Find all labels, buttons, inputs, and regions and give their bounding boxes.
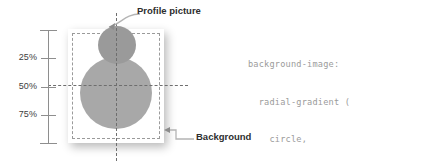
ruler-tick-100 — [40, 143, 57, 144]
ruler-label-25: 25% — [19, 52, 37, 62]
percentage-ruler: 25% 50% 75% — [48, 30, 49, 143]
ruler-tick-0 — [40, 30, 57, 31]
horizontal-center-guide — [48, 85, 188, 86]
annotation-label-profile-picture: Profile picture — [137, 5, 201, 16]
arrow-head-icon — [164, 127, 170, 133]
code-line-2: radial-gradient ( — [248, 96, 377, 109]
ruler-tick-50: 50% — [41, 87, 56, 88]
css-code-snippet: background-image: radial-gradient ( circ… — [248, 33, 377, 163]
diagram-screenshot: 25% 50% 75% Profile picture Background b… — [0, 0, 425, 163]
annotation-label-background: Background — [196, 131, 251, 142]
code-line-3: circle, — [248, 133, 377, 146]
ruler-tick-75: 75% — [41, 115, 56, 116]
arrow-head-icon — [109, 23, 115, 30]
ruler-label-50: 50% — [19, 81, 37, 91]
ruler-tick-25: 25% — [41, 58, 56, 59]
ruler-label-75: 75% — [19, 109, 37, 119]
code-line-1: background-image: — [248, 58, 377, 71]
